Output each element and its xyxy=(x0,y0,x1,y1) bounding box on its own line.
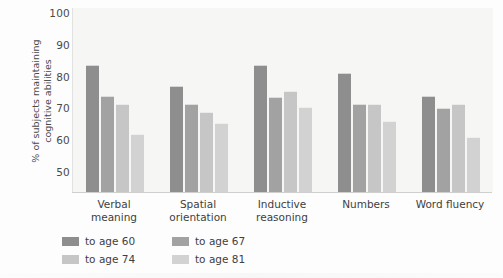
legend-swatch-icon xyxy=(62,255,79,264)
y-tick-label-80: 80 xyxy=(56,71,70,83)
legend-item-to-age-74[interactable]: to age 74 xyxy=(62,253,172,265)
x-axis-baseline xyxy=(72,192,492,193)
y-tick-label-60: 60 xyxy=(56,134,70,146)
bar-group-word-fluency xyxy=(409,8,493,192)
bar-inductive-reasoning-to-age-74 xyxy=(284,91,297,192)
legend: to age 60to age 67to age 74to age 81 xyxy=(62,232,312,272)
legend-item-to-age-81[interactable]: to age 81 xyxy=(172,253,282,265)
x-tick-label-verbal-meaning: Verbalmeaning xyxy=(72,195,156,229)
x-tick-label-word-fluency: Word fluency xyxy=(408,195,492,229)
bar-verbal-meaning-to-age-74 xyxy=(116,104,129,192)
bar-spatial-orientation-to-age-60 xyxy=(170,86,183,192)
x-tick-label-line-2: orientation xyxy=(156,211,240,224)
bar-group-numbers xyxy=(325,8,409,192)
y-tick-label-90: 90 xyxy=(56,39,70,51)
plot-area xyxy=(72,8,493,192)
x-tick-label-line-2: reasoning xyxy=(240,211,324,224)
bar-word-fluency-to-age-81 xyxy=(467,137,480,192)
bar-word-fluency-to-age-74 xyxy=(452,104,465,192)
bar-inductive-reasoning-to-age-81 xyxy=(299,107,312,192)
bar-group-inductive-reasoning xyxy=(241,8,325,192)
bar-spatial-orientation-to-age-74 xyxy=(200,112,213,192)
bar-spatial-orientation-to-age-67 xyxy=(185,104,198,192)
bar-groups xyxy=(73,8,493,192)
bar-word-fluency-to-age-60 xyxy=(422,96,435,192)
legend-swatch-icon xyxy=(172,237,189,246)
bar-inductive-reasoning-to-age-67 xyxy=(269,97,282,192)
y-axis-label-wrap: % of subjects maintainingcognitive abili… xyxy=(6,8,40,194)
bar-numbers-to-age-60 xyxy=(338,73,351,192)
x-tick-label-line-1: Numbers xyxy=(324,198,408,211)
legend-label: to age 81 xyxy=(195,253,245,265)
bar-inductive-reasoning-to-age-60 xyxy=(254,65,267,192)
y-axis-tick-labels: 5060708090100 xyxy=(40,0,70,200)
legend-swatch-icon xyxy=(62,237,79,246)
legend-label: to age 67 xyxy=(195,235,245,247)
bar-numbers-to-age-67 xyxy=(353,104,366,192)
bar-numbers-to-age-81 xyxy=(383,121,396,192)
legend-swatch-icon xyxy=(172,255,189,264)
x-tick-label-line-1: Verbal xyxy=(72,198,156,211)
bar-group-verbal-meaning xyxy=(73,8,157,192)
scan-artifact xyxy=(0,273,503,278)
bar-word-fluency-to-age-67 xyxy=(437,108,450,192)
legend-label: to age 74 xyxy=(85,253,135,265)
bar-verbal-meaning-to-age-81 xyxy=(131,134,144,192)
bar-numbers-to-age-74 xyxy=(368,104,381,192)
bar-verbal-meaning-to-age-60 xyxy=(86,65,99,192)
bar-group-spatial-orientation xyxy=(157,8,241,192)
y-tick-label-70: 70 xyxy=(56,102,70,114)
x-tick-label-spatial-orientation: Spatialorientation xyxy=(156,195,240,229)
x-tick-label-inductive-reasoning: Inductivereasoning xyxy=(240,195,324,229)
bar-verbal-meaning-to-age-67 xyxy=(101,96,114,192)
bar-spatial-orientation-to-age-81 xyxy=(215,123,228,192)
x-tick-label-line-2: meaning xyxy=(72,211,156,224)
bar-chart-figure: % of subjects maintainingcognitive abili… xyxy=(0,0,503,278)
legend-item-to-age-67[interactable]: to age 67 xyxy=(172,235,282,247)
legend-item-to-age-60[interactable]: to age 60 xyxy=(62,235,172,247)
y-tick-label-100: 100 xyxy=(49,7,70,19)
x-tick-label-line-1: Spatial xyxy=(156,198,240,211)
x-tick-label-line-1: Inductive xyxy=(240,198,324,211)
x-axis-category-labels: VerbalmeaningSpatialorientationInductive… xyxy=(72,195,492,229)
legend-label: to age 60 xyxy=(85,235,135,247)
y-tick-label-50: 50 xyxy=(56,166,70,178)
x-tick-label-numbers: Numbers xyxy=(324,195,408,229)
x-tick-label-line-1: Word fluency xyxy=(408,198,492,211)
